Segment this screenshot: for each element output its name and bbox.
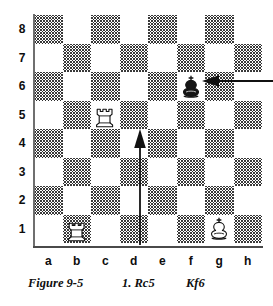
chess-board bbox=[34, 15, 262, 247]
square-a5[interactable] bbox=[34, 101, 63, 130]
rank-labels: 8 7 6 5 4 3 2 1 bbox=[14, 15, 30, 243]
rank-label-3: 3 bbox=[14, 158, 30, 187]
square-d7[interactable] bbox=[120, 44, 149, 73]
board-left-border bbox=[33, 14, 35, 247]
square-b3[interactable] bbox=[63, 158, 92, 187]
rank-label-8: 8 bbox=[14, 15, 30, 44]
white-move-label: 1. Rc5 bbox=[122, 276, 155, 291]
square-e3[interactable] bbox=[148, 158, 177, 187]
square-f7[interactable] bbox=[177, 44, 206, 73]
square-c7[interactable] bbox=[91, 44, 120, 73]
square-c8[interactable] bbox=[91, 15, 120, 44]
square-h3[interactable] bbox=[234, 158, 263, 187]
file-label-c: c bbox=[91, 252, 120, 269]
square-f8[interactable] bbox=[177, 15, 206, 44]
square-a2[interactable] bbox=[34, 186, 63, 215]
square-h8[interactable] bbox=[234, 15, 263, 44]
square-b8[interactable] bbox=[63, 15, 92, 44]
square-a1[interactable] bbox=[34, 215, 63, 244]
square-c3[interactable] bbox=[91, 158, 120, 187]
king-move-arrow bbox=[200, 73, 273, 89]
square-d8[interactable] bbox=[120, 15, 149, 44]
figure-number-label: Figure 9-5 bbox=[28, 276, 83, 291]
square-e2[interactable] bbox=[148, 186, 177, 215]
square-b5[interactable] bbox=[63, 101, 92, 130]
square-e8[interactable] bbox=[148, 15, 177, 44]
file-label-h: h bbox=[234, 252, 263, 269]
file-label-f: f bbox=[177, 252, 206, 269]
square-e7[interactable] bbox=[148, 44, 177, 73]
rank-label-1: 1 bbox=[14, 215, 30, 244]
file-label-a: a bbox=[34, 252, 63, 269]
file-label-g: g bbox=[205, 252, 234, 269]
square-g8[interactable] bbox=[205, 15, 234, 44]
square-a3[interactable] bbox=[34, 158, 63, 187]
square-d6[interactable] bbox=[120, 72, 149, 101]
black-move-label: Kf6 bbox=[186, 276, 205, 291]
square-b2[interactable] bbox=[63, 186, 92, 215]
square-f4[interactable] bbox=[177, 129, 206, 158]
file-labels: a b c d e f g h bbox=[34, 252, 262, 269]
square-g2[interactable] bbox=[205, 186, 234, 215]
rank-label-5: 5 bbox=[14, 101, 30, 130]
square-f1[interactable] bbox=[177, 215, 206, 244]
square-g7[interactable] bbox=[205, 44, 234, 73]
square-a6[interactable] bbox=[34, 72, 63, 101]
square-c6[interactable] bbox=[91, 72, 120, 101]
rank-label-2: 2 bbox=[14, 186, 30, 215]
square-e1[interactable] bbox=[148, 215, 177, 244]
square-a8[interactable] bbox=[34, 15, 63, 44]
square-c4[interactable] bbox=[91, 129, 120, 158]
square-h2[interactable] bbox=[234, 186, 263, 215]
file-label-d: d bbox=[120, 252, 149, 269]
square-e4[interactable] bbox=[148, 129, 177, 158]
file-label-b: b bbox=[63, 252, 92, 269]
rank-label-7: 7 bbox=[14, 44, 30, 73]
square-b7[interactable] bbox=[63, 44, 92, 73]
rook-move-arrow bbox=[132, 127, 148, 245]
square-d5[interactable] bbox=[120, 101, 149, 130]
square-e5[interactable] bbox=[148, 101, 177, 130]
square-e6[interactable] bbox=[148, 72, 177, 101]
square-f3[interactable] bbox=[177, 158, 206, 187]
white-rook-b1[interactable] bbox=[63, 215, 92, 244]
square-a4[interactable] bbox=[34, 129, 63, 158]
board-bottom-border bbox=[33, 246, 263, 248]
rank-label-6: 6 bbox=[14, 72, 30, 101]
square-g3[interactable] bbox=[205, 158, 234, 187]
square-g5[interactable] bbox=[205, 101, 234, 130]
rank-label-4: 4 bbox=[14, 129, 30, 158]
square-f5[interactable] bbox=[177, 101, 206, 130]
board-squares bbox=[34, 15, 262, 243]
square-c1[interactable] bbox=[91, 215, 120, 244]
chess-diagram-figure: 8 7 6 5 4 3 2 1 a b c bbox=[0, 0, 273, 306]
square-c2[interactable] bbox=[91, 186, 120, 215]
square-g4[interactable] bbox=[205, 129, 234, 158]
square-f2[interactable] bbox=[177, 186, 206, 215]
square-h4[interactable] bbox=[234, 129, 263, 158]
white-rook-c5[interactable] bbox=[91, 101, 120, 130]
square-h5[interactable] bbox=[234, 101, 263, 130]
file-label-e: e bbox=[148, 252, 177, 269]
square-b6[interactable] bbox=[63, 72, 92, 101]
square-h7[interactable] bbox=[234, 44, 263, 73]
figure-caption: Figure 9-5 1. Rc5 Kf6 bbox=[0, 276, 273, 298]
square-h1[interactable] bbox=[234, 215, 263, 244]
square-a7[interactable] bbox=[34, 44, 63, 73]
white-king-g1[interactable] bbox=[205, 215, 234, 244]
square-b4[interactable] bbox=[63, 129, 92, 158]
